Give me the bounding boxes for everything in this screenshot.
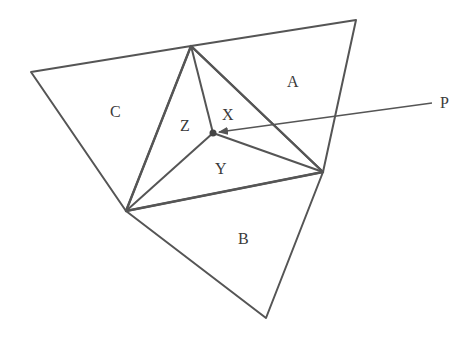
triangle-b: [126, 172, 323, 318]
label-p: P: [440, 94, 449, 111]
diagram-canvas: A C B X Z Y P: [0, 0, 475, 340]
edge-p-right: [213, 133, 323, 172]
arrow-to-p: [219, 103, 432, 132]
triangle-c: [31, 46, 191, 211]
label-z: Z: [180, 117, 190, 134]
triangulation-diagram: A C B X Z Y P: [0, 0, 475, 340]
edge-p-top: [191, 46, 213, 133]
label-x: X: [222, 106, 234, 123]
label-a: A: [287, 73, 299, 90]
central-triangle: [126, 46, 323, 211]
label-c: C: [110, 103, 121, 120]
label-b: B: [238, 230, 249, 247]
edges: [31, 20, 356, 318]
edge-p-bottomleft: [126, 133, 213, 211]
point-p: [210, 130, 217, 137]
label-y: Y: [215, 160, 227, 177]
triangle-a: [191, 20, 356, 172]
